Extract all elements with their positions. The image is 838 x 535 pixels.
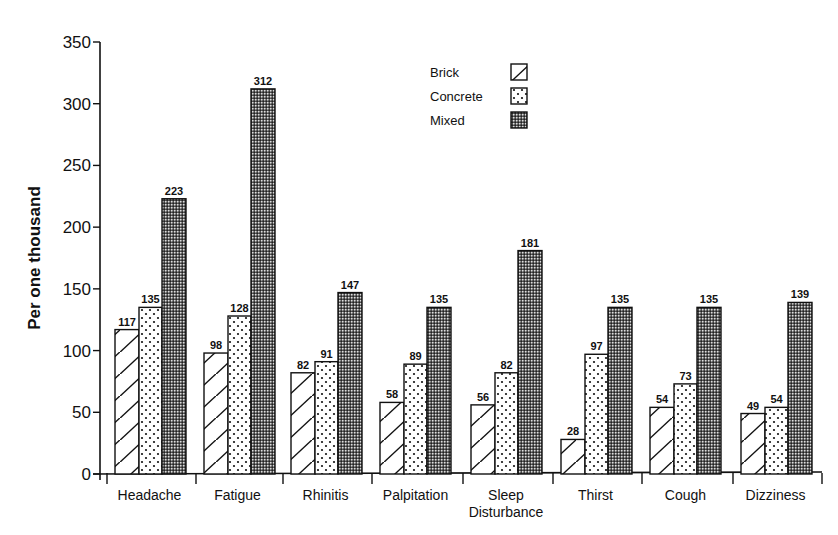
bar-value-label: 181 [521, 237, 539, 249]
bar-concrete [585, 354, 608, 474]
bar-group-cough: 5473135 [650, 293, 721, 474]
bar-value-label: 82 [297, 359, 309, 371]
bar-value-label: 223 [165, 185, 183, 197]
bar-value-label: 54 [656, 393, 669, 405]
bar-group-dizziness: 4954139 [741, 288, 812, 474]
bar-group-thirst: 2897135 [561, 293, 632, 474]
bar-mixed [338, 293, 362, 474]
bar-value-label: 312 [254, 75, 272, 87]
x-category-label: Sleep [488, 487, 524, 503]
bar-concrete [404, 364, 427, 474]
bar-concrete [315, 362, 338, 474]
legend: BrickConcreteMixed [430, 64, 527, 128]
bar-brick [204, 353, 228, 474]
bar-brick [650, 407, 674, 474]
bar-mixed [162, 199, 186, 474]
bar-value-label: 82 [500, 359, 512, 371]
dense-checker-swatch-icon [511, 112, 527, 128]
legend-label: Concrete [430, 89, 483, 104]
bar-value-label: 58 [386, 388, 398, 400]
bar-brick [561, 439, 585, 474]
bar-value-label: 91 [320, 348, 332, 360]
bar-mixed [427, 307, 451, 474]
y-tick-label: 100 [63, 342, 91, 361]
x-category-label: Rhinitis [303, 487, 349, 503]
y-tick-label: 300 [63, 95, 91, 114]
bar-value-label: 28 [567, 425, 579, 437]
y-tick-label: 50 [72, 403, 91, 422]
bar-mixed [518, 251, 542, 474]
x-category-label: Disturbance [469, 504, 544, 520]
bar-value-label: 139 [791, 288, 809, 300]
bar-mixed [697, 307, 721, 474]
bar-value-label: 135 [430, 293, 448, 305]
x-category-label: Thirst [578, 487, 613, 503]
bar-value-label: 56 [477, 391, 489, 403]
y-axis-label: Per one thousand [25, 186, 44, 330]
bar-value-label: 49 [747, 400, 759, 412]
x-category-label: Fatigue [214, 487, 261, 503]
y-tick-label: 250 [63, 156, 91, 175]
legend-label: Mixed [430, 113, 465, 128]
bar-brick [115, 330, 139, 474]
bar-concrete [765, 407, 788, 474]
bar-value-label: 54 [770, 393, 783, 405]
bar-value-label: 89 [409, 350, 421, 362]
bar-value-label: 117 [118, 316, 136, 328]
y-tick-label: 200 [63, 218, 91, 237]
y-tick-label: 350 [63, 33, 91, 52]
bar-value-label: 135 [611, 293, 629, 305]
x-category-label: Cough [665, 487, 706, 503]
bar-value-label: 98 [210, 339, 222, 351]
bar-value-label: 97 [590, 340, 602, 352]
dotted-swatch-icon [511, 88, 527, 104]
x-category-label: Dizziness [746, 487, 806, 503]
bar-brick [380, 402, 404, 474]
bar-chart: 050100150200250300350 HeadacheFatigueRhi… [0, 0, 838, 535]
bar-brick [471, 405, 495, 474]
y-tick-label: 150 [63, 280, 91, 299]
bar-brick [741, 414, 765, 474]
bar-group-rhinitis: 8291147 [291, 279, 362, 474]
bar-value-label: 128 [230, 302, 248, 314]
bar-value-label: 135 [700, 293, 718, 305]
bar-brick [291, 373, 315, 474]
bar-group-fatigue: 98128312 [204, 75, 275, 474]
bar-mixed [251, 89, 275, 474]
bar-mixed [788, 302, 812, 474]
bar-mixed [608, 307, 632, 474]
legend-label: Brick [430, 65, 459, 80]
bar-group-palpitation: 5889135 [380, 293, 451, 474]
bar-concrete [674, 384, 697, 474]
y-axis: 050100150200250300350 [63, 33, 100, 484]
x-category-label: Palpitation [383, 487, 448, 503]
x-axis: HeadacheFatigueRhinitisPalpitationSleepD… [93, 472, 822, 520]
bar-value-label: 73 [679, 370, 691, 382]
bar-value-label: 135 [141, 293, 159, 305]
bar-series-group: 1171352239812831282911475889135568218128… [115, 75, 812, 474]
y-tick-label: 0 [82, 465, 91, 484]
diagonal-hatch-swatch-icon [511, 64, 527, 80]
bar-group-headache: 117135223 [115, 185, 186, 474]
x-category-label: Headache [118, 487, 182, 503]
bar-value-label: 147 [341, 279, 359, 291]
bar-group-sleep-disturbance: 5682181 [471, 237, 542, 474]
bar-concrete [228, 316, 251, 474]
bar-concrete [139, 307, 162, 474]
bar-concrete [495, 373, 518, 474]
